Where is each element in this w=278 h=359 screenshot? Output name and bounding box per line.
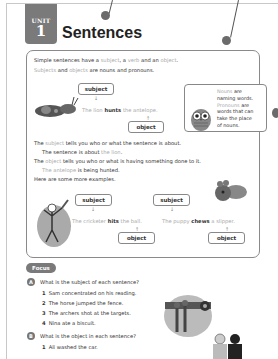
- question-a-3: 3The archers shot at the targets.: [42, 310, 131, 316]
- subject-label-box-2: subject: [75, 194, 112, 206]
- note-box: Nouns are naming words. Pronouns are wor…: [184, 84, 267, 132]
- subject-label-box-3: subject: [153, 194, 190, 206]
- subject-example: The sentence is about the lion.: [42, 149, 122, 156]
- unit-tab: UNIT 1: [25, 4, 57, 44]
- section-a-badge: A: [27, 278, 35, 286]
- pin-string-right: [230, 0, 239, 37]
- question-b-1: 1Ali washed the car.: [42, 344, 98, 350]
- question-a-4: 4Nina ate a biscuit.: [42, 320, 96, 326]
- note-text: Nouns are naming words. Pronouns are wor…: [217, 88, 253, 129]
- object-label-box-2: object: [118, 232, 155, 244]
- subject-explanation: The subject tells you who or what the se…: [34, 140, 181, 147]
- arrow-down-icon: ↓: [94, 96, 98, 101]
- section-b-question: What is the object in each sentence?: [40, 333, 136, 339]
- object-example: The antelope is being hunted.: [42, 167, 120, 174]
- lion-antelope-illustration: [34, 96, 82, 118]
- focus-badge: Focus: [26, 263, 56, 273]
- subject-label-box: subject: [78, 83, 114, 95]
- archers-illustration: [163, 294, 213, 340]
- page-left-border: [6, 3, 7, 359]
- page-title: Sentences: [62, 24, 142, 42]
- example-3-sentence: The puppy chews a slipper.: [162, 218, 235, 225]
- example-1-sentence: The lion hunts the antelope.: [82, 107, 158, 114]
- people-illustration: [208, 333, 248, 359]
- pin-dot-right: [222, 36, 231, 45]
- owl-illustration: [189, 105, 213, 131]
- object-explanation: The object tells you who or what is havi…: [34, 158, 201, 165]
- question-a-2: 2The horse jumped the fence.: [42, 300, 123, 306]
- arrow-down-icon-3: ↓: [170, 207, 174, 212]
- section-a-question: What is the subject of each sentence?: [40, 279, 139, 285]
- cricketer-illustration: [36, 198, 72, 248]
- question-a-1: 1Sam concentrated on his reading.: [42, 290, 137, 296]
- pin-dot-side: [272, 108, 278, 118]
- intro-line-2: Subjects and objects are nouns and prono…: [34, 67, 154, 74]
- more-examples-text: Here are some more examples.: [34, 176, 116, 183]
- intro-line-1: Simple sentences have a subject, a verb …: [34, 57, 178, 64]
- example-2-sentence: The cricketer hits the ball.: [72, 218, 142, 225]
- unit-number: 1: [25, 24, 57, 39]
- puppy-slipper-illustration: [212, 178, 248, 202]
- arrow-down-icon-2: ↓: [91, 207, 95, 212]
- pin-dot-left: [101, 11, 110, 20]
- object-label-box: object: [128, 121, 164, 133]
- section-b-badge: B: [27, 332, 35, 340]
- object-label-box-3: object: [208, 232, 245, 244]
